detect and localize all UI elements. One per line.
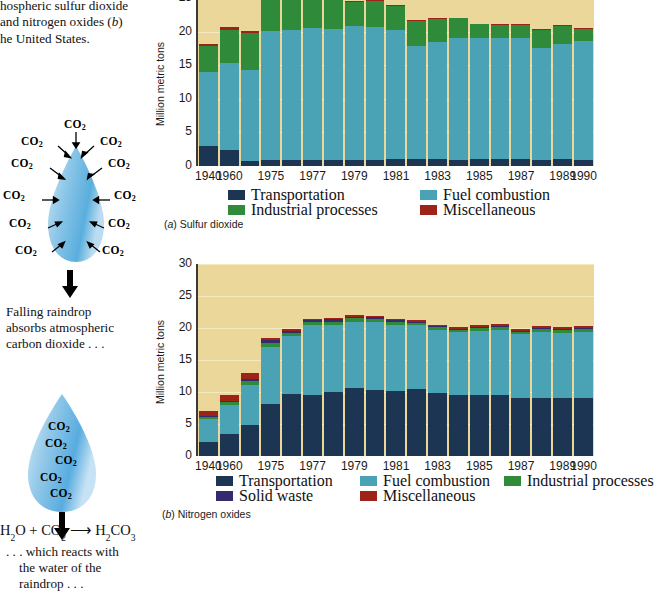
co2-label: CO2	[114, 189, 136, 201]
bar[interactable]	[531, 0, 552, 166]
note-2-line-2: the water of the	[6, 560, 152, 576]
bar[interactable]	[281, 264, 302, 456]
bar-segment	[491, 395, 510, 456]
bar[interactable]	[260, 0, 281, 166]
x-axis-tick-label: 1977	[290, 169, 336, 183]
bar-segment	[532, 160, 551, 166]
bar[interactable]	[573, 264, 594, 456]
bar[interactable]	[365, 0, 386, 166]
bar-segment	[470, 38, 489, 158]
legend-item[interactable]: Industrial processes	[504, 472, 654, 490]
bar[interactable]	[281, 0, 302, 166]
bar-segment	[303, 0, 322, 28]
bar[interactable]	[510, 264, 531, 456]
bar[interactable]	[427, 0, 448, 166]
legend-item[interactable]: Miscellaneous	[360, 487, 475, 505]
bar[interactable]	[406, 0, 427, 166]
co2-label: CO2	[15, 244, 37, 256]
bar[interactable]	[344, 264, 365, 456]
bar[interactable]	[510, 0, 531, 166]
legend-item[interactable]: Miscellaneous	[420, 201, 535, 219]
legend-label: Industrial processes	[251, 201, 378, 219]
bar-segment	[532, 30, 551, 49]
bar[interactable]	[240, 0, 261, 166]
raindrop-note-1: Falling raindrop absorbs atmospheric car…	[6, 304, 152, 353]
bar[interactable]	[365, 264, 386, 456]
bar[interactable]	[219, 0, 240, 166]
bar[interactable]	[260, 264, 281, 456]
bar-segment	[261, 0, 280, 31]
bar-segment	[553, 398, 572, 456]
y-axis-label: Million metric tons	[154, 320, 166, 404]
bar-segment	[449, 332, 468, 395]
bar-segment	[345, 388, 364, 456]
bar-segment	[532, 332, 551, 398]
bar-segment	[511, 398, 530, 456]
bar-segment	[261, 347, 280, 403]
caption-line-2-text: and nitrogen oxides (	[0, 14, 112, 29]
legend-item[interactable]: Solid waste	[216, 487, 313, 505]
bar-segment	[449, 38, 468, 160]
bar[interactable]	[552, 264, 573, 456]
bar[interactable]	[573, 0, 594, 166]
bar[interactable]	[469, 0, 490, 166]
bar-segment	[241, 161, 260, 166]
bar[interactable]	[198, 0, 219, 166]
bar[interactable]	[323, 264, 344, 456]
co2-label: CO2	[108, 217, 130, 229]
bar-segment	[386, 159, 405, 166]
bar[interactable]	[490, 0, 511, 166]
bar[interactable]	[385, 0, 406, 166]
co2-label: CO2	[64, 118, 86, 130]
bar[interactable]	[385, 264, 406, 456]
y-axis-tick-label: 5	[166, 126, 192, 136]
bar[interactable]	[448, 264, 469, 456]
bar-segment	[532, 398, 551, 456]
bar-segment	[220, 434, 239, 456]
legend-swatch	[228, 190, 245, 200]
bar[interactable]	[448, 0, 469, 166]
bar-segment	[470, 24, 489, 38]
bar[interactable]	[552, 0, 573, 166]
x-axis-tick-label: 1987	[498, 169, 544, 183]
bar[interactable]	[531, 264, 552, 456]
bar-segment	[491, 38, 510, 158]
bar-segment	[511, 25, 530, 38]
y-axis-tick-label: 10	[166, 386, 192, 396]
bar-segment	[511, 38, 530, 158]
legend-item[interactable]: Industrial processes	[228, 201, 378, 219]
y-axis-tick-label: 20	[166, 322, 192, 332]
bar-segment	[282, 0, 301, 30]
co2-label: CO2	[11, 157, 33, 169]
bar-segment	[220, 405, 239, 434]
bar[interactable]	[302, 264, 323, 456]
bar-segment	[303, 325, 322, 394]
legend-label: Miscellaneous	[443, 201, 535, 219]
bar[interactable]	[219, 264, 240, 456]
bar-segment	[241, 70, 260, 161]
bar-segment	[345, 322, 364, 389]
bar[interactable]	[406, 264, 427, 456]
chart-sulfur-dioxide: 0510152025Million metric tons19401960197…	[152, 0, 601, 236]
bar[interactable]	[469, 264, 490, 456]
bar-segment	[574, 29, 593, 41]
co2-label: CO2	[48, 420, 70, 432]
bar-segment	[324, 0, 343, 29]
bar-segment	[511, 159, 530, 166]
bar[interactable]	[344, 0, 365, 166]
caption-line-1: hospheric sulfur dioxide	[0, 0, 152, 14]
x-axis-tick-label: 1990	[561, 169, 607, 183]
x-axis-tick-label: 1975	[248, 169, 294, 183]
figure-note: (a) Sulfur dioxide	[164, 218, 243, 230]
x-axis-tick-label: 1983	[415, 169, 461, 183]
bar[interactable]	[427, 264, 448, 456]
bar[interactable]	[240, 264, 261, 456]
caption-line-3: he United States.	[0, 31, 152, 47]
bar[interactable]	[323, 0, 344, 166]
bar[interactable]	[490, 264, 511, 456]
figure-note-suffix: ) Sulfur dioxide	[173, 218, 243, 230]
bar[interactable]	[198, 264, 219, 456]
bar[interactable]	[302, 0, 323, 166]
x-axis-tick-label: 1979	[331, 459, 377, 473]
bar-segment	[574, 332, 593, 399]
